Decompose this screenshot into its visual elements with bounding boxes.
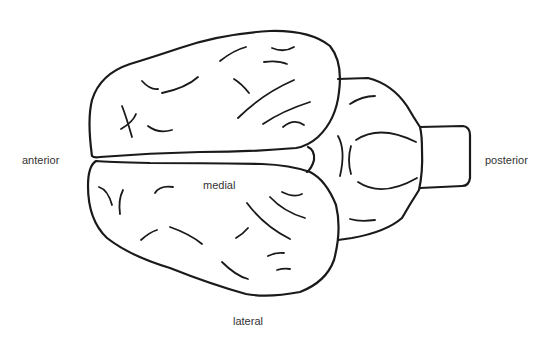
brain-diagram <box>0 0 555 337</box>
brainstem <box>420 126 470 188</box>
lateral-label: lateral <box>233 316 263 327</box>
upper-hemisphere <box>90 31 340 157</box>
anterior-label: anterior <box>22 155 59 166</box>
midline-bulge <box>307 147 314 172</box>
posterior-label: posterior <box>485 155 528 166</box>
cerebellum <box>338 78 422 240</box>
medial-label: medial <box>203 180 235 191</box>
